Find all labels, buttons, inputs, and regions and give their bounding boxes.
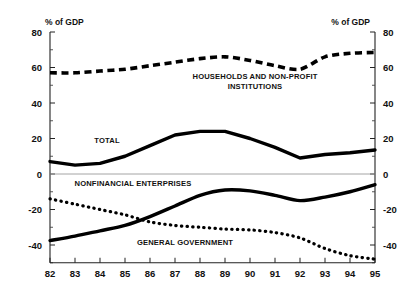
x-tick-label: 88 [195, 268, 206, 279]
series-paths [50, 52, 375, 259]
series-line-3 [50, 185, 375, 241]
y-tick-label-right: 0 [383, 169, 388, 180]
x-tick-label: 95 [370, 268, 381, 279]
y-axis-right [370, 32, 375, 263]
x-axis [50, 258, 375, 263]
x-tick-label: 92 [295, 268, 306, 279]
x-tick-label: 94 [345, 268, 356, 279]
y-axis-right-unit-label: % of GDP [331, 17, 370, 27]
series-line-1 [50, 52, 375, 73]
y-tick-label-right: -40 [383, 240, 397, 251]
y-tick-label-right: 60 [383, 62, 394, 73]
y-axis-left [50, 32, 55, 263]
y-tick-label-right: -20 [383, 204, 397, 215]
series-line-4 [50, 199, 375, 259]
total-label: TOTAL [94, 136, 120, 145]
y-axis-left-unit-label: % of GDP [45, 17, 84, 27]
y-tick-label-left: -40 [28, 240, 42, 251]
x-tick-label: 83 [70, 268, 81, 279]
nonfinancial-enterprises-label: NONFINANCIAL ENTERPRISES [75, 179, 192, 188]
x-tick-label: 90 [245, 268, 256, 279]
x-tick-label: 85 [120, 268, 131, 279]
y-tick-label-right: 40 [383, 98, 394, 109]
y-tick-label-left: 0 [37, 169, 42, 180]
chart-svg: 806040200-20-40806040200-20-408283848586… [0, 0, 413, 297]
x-tick-label: 84 [95, 268, 106, 279]
y-tick-label-left: -20 [28, 204, 42, 215]
households-label: HOUSEHOLDS AND NON-PROFITINSTITUTIONS [193, 72, 318, 91]
chart-container: 806040200-20-40806040200-20-408283848586… [0, 0, 413, 297]
y-tick-label-left: 60 [31, 62, 42, 73]
x-tick-label: 91 [270, 268, 281, 279]
general-government-label: GENERAL GOVERNMENT [137, 238, 233, 247]
x-tick-label: 93 [320, 268, 331, 279]
y-tick-label-left: 20 [31, 133, 42, 144]
y-tick-label-left: 40 [31, 98, 42, 109]
x-tick-label: 89 [220, 268, 231, 279]
x-tick-label: 86 [145, 268, 156, 279]
y-tick-label-right: 80 [383, 27, 394, 38]
y-tick-label-left: 80 [31, 27, 42, 38]
x-tick-label: 82 [45, 268, 56, 279]
y-tick-label-right: 20 [383, 133, 394, 144]
x-tick-label: 87 [170, 268, 181, 279]
